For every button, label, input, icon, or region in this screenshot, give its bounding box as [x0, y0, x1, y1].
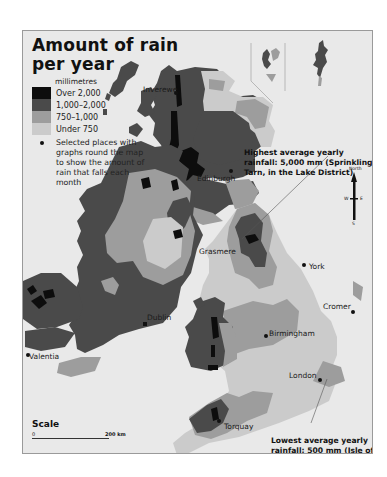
place-marker-icon — [40, 141, 44, 145]
compass-west-label: W — [344, 196, 348, 201]
legend-label: Under 750 — [56, 125, 98, 134]
place-label-london: London — [289, 371, 317, 380]
legend-unit: millimetres — [55, 77, 146, 87]
legend-row-1000-2000: 1,000–2,000 — [32, 99, 146, 111]
place-dot-london — [318, 378, 322, 382]
legend-swatch — [32, 99, 51, 111]
legend-row-750-1000: 750–1,000 — [32, 111, 146, 123]
legend-swatch — [32, 123, 51, 135]
legend-swatch — [32, 87, 51, 99]
place-label-torquay: Torquay — [224, 422, 253, 431]
place-dot-torquay — [217, 419, 221, 423]
place-label-grasmere: Grasmere — [199, 247, 236, 256]
place-dot-york — [302, 263, 306, 267]
inset-islands — [251, 40, 328, 103]
place-label-birmingham: Birmingham — [269, 329, 315, 338]
place-dot-edinburgh — [229, 169, 233, 173]
scale-line — [32, 438, 109, 439]
place-label-dublin: Dublin — [147, 313, 171, 322]
compass-east-label: E — [360, 196, 363, 201]
place-label-inverewe: Inverewe — [143, 85, 177, 94]
lowest-rainfall-annotation: Lowest average yearly rainfall: 500 mm (… — [271, 436, 373, 454]
place-dot-dublin — [143, 322, 147, 326]
map-frame: Amount of rain per year millimetres Over… — [22, 30, 373, 454]
scale-end: 200 km — [105, 431, 126, 437]
legend-swatch — [32, 111, 51, 123]
place-label-edinburgh: Edinburgh — [197, 174, 235, 183]
place-label-york: York — [309, 262, 325, 271]
place-label-valentia: Valentia — [29, 352, 59, 361]
title-line-1: Amount of rain — [32, 36, 178, 55]
legend: millimetres Over 2,000 1,000–2,000 750–1… — [32, 77, 146, 188]
scale-start: 0 — [32, 431, 35, 437]
map-title: Amount of rain per year — [32, 36, 178, 74]
title-line-2: per year — [32, 55, 178, 74]
legend-marker-label: Selected places with graphs round the ma… — [56, 138, 146, 188]
compass: North W E S — [340, 166, 370, 226]
legend-label: Over 2,000 — [56, 89, 101, 98]
legend-label: 1,000–2,000 — [56, 101, 106, 110]
legend-marker-row: Selected places with graphs round the ma… — [32, 138, 146, 188]
legend-label: 750–1,000 — [56, 113, 98, 122]
place-dot-birmingham — [264, 334, 268, 338]
legend-row-under-750: Under 750 — [32, 123, 146, 135]
scale-title: Scale — [32, 419, 59, 429]
legend-row-over-2000: Over 2,000 — [32, 87, 146, 99]
compass-south-label: S — [352, 221, 355, 226]
place-label-cromer: Cromer — [323, 302, 351, 311]
scale-bar: Scale 0 200 km — [32, 419, 59, 429]
place-dot-cromer — [351, 310, 355, 314]
